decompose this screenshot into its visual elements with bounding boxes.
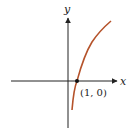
y-axis-label: y [63,3,71,16]
logarithm-graph: x y (1, 0) [0,0,134,132]
x-axis-label: x [120,75,127,88]
point-1-0-marker [75,79,79,83]
point-label: (1, 0) [80,87,107,98]
